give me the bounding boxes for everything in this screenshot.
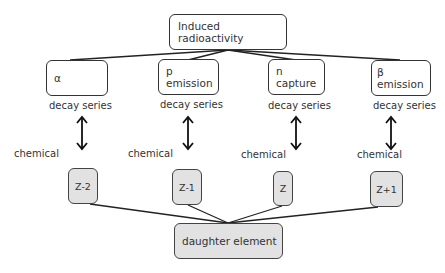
double-arrow-icon-1 bbox=[77, 117, 87, 149]
chemical-label-2: chemical bbox=[128, 148, 173, 159]
double-arrows bbox=[77, 117, 396, 149]
process-label: α bbox=[54, 72, 61, 84]
process-box-alpha: α bbox=[46, 60, 108, 96]
product-label: Z-1 bbox=[179, 182, 195, 193]
double-arrow-icon-2 bbox=[183, 117, 193, 149]
sink-connectors bbox=[90, 204, 378, 223]
product-box-z-plus-1: Z+1 bbox=[370, 171, 403, 207]
process-label: p emission bbox=[166, 65, 218, 89]
sink-label: daughter element bbox=[182, 235, 277, 247]
process-label: β emission bbox=[377, 66, 430, 90]
root-label: Induced radioactivity bbox=[178, 20, 286, 44]
double-arrow-icon-4 bbox=[386, 117, 396, 149]
root-connectors bbox=[70, 50, 400, 60]
process-label: n capture bbox=[276, 65, 324, 89]
product-label: Z+1 bbox=[376, 184, 397, 195]
process-box-n-capture: n capture bbox=[268, 59, 325, 95]
decay-series-label-2: decay series bbox=[160, 99, 223, 110]
process-box-p-emission: p emission bbox=[158, 59, 219, 95]
double-arrow-icon-3 bbox=[291, 117, 301, 149]
product-box-z: Z bbox=[273, 171, 293, 206]
chemical-label-3: chemical bbox=[241, 149, 286, 160]
root-box-induced-radioactivity: Induced radioactivity bbox=[169, 14, 287, 50]
product-label: Z bbox=[280, 183, 287, 194]
decay-series-label-1: decay series bbox=[49, 100, 112, 111]
product-box-z-minus-2: Z-2 bbox=[68, 168, 98, 204]
chemical-label-1: chemical bbox=[14, 148, 59, 159]
sink-box-daughter-element: daughter element bbox=[174, 223, 283, 259]
decay-series-label-3: decay series bbox=[268, 100, 331, 111]
decay-series-label-4: decay series bbox=[373, 100, 436, 111]
product-label: Z-2 bbox=[75, 181, 91, 192]
chemical-label-4: chemical bbox=[357, 149, 402, 160]
product-box-z-minus-1: Z-1 bbox=[172, 169, 202, 205]
process-box-beta-emission: β emission bbox=[371, 60, 431, 96]
